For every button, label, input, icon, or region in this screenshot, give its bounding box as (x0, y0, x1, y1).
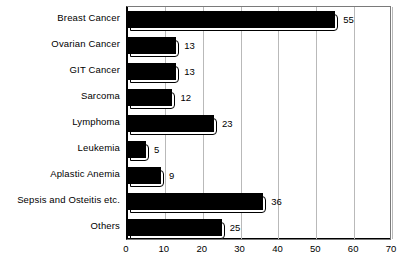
bar (127, 63, 176, 80)
bar-value-label: 36 (271, 197, 282, 207)
bar-fill (127, 89, 172, 106)
gridline-70 (392, 7, 393, 239)
bar-value-label: 55 (343, 15, 354, 25)
bar-value-label: 13 (184, 41, 195, 51)
bar-value-label: 25 (230, 223, 241, 233)
category-label: Sepsis and Osteitis etc. (0, 195, 120, 205)
bar-value-label: 5 (154, 145, 159, 155)
bar-value-label: 12 (180, 93, 191, 103)
bar-fill (127, 63, 176, 80)
x-tick-label: 50 (310, 243, 321, 254)
category-label: Sarcoma (0, 91, 120, 101)
gridline-50 (316, 7, 317, 239)
bar (127, 37, 176, 54)
x-tick-label: 20 (196, 243, 207, 254)
bar-chart: Breast CancerOvarian CancerGIT CancerSar… (0, 0, 405, 268)
bar-fill (127, 219, 222, 236)
category-label: Breast Cancer (0, 13, 120, 23)
gridline-60 (354, 7, 355, 239)
category-label: Others (0, 221, 120, 231)
x-tick-label: 10 (159, 243, 170, 254)
bar (127, 219, 222, 236)
category-label: Aplastic Anemia (0, 169, 120, 179)
bar (127, 141, 146, 158)
bar-fill (127, 141, 146, 158)
plot-area: 5513131223593625 (126, 6, 391, 240)
category-label: Ovarian Cancer (0, 39, 120, 49)
x-tick-label: 40 (272, 243, 283, 254)
bar-fill (127, 11, 335, 28)
bar-fill (127, 115, 214, 132)
bar (127, 115, 214, 132)
bar-value-label: 9 (169, 171, 174, 181)
bar-fill (127, 167, 161, 184)
category-label: Lymphoma (0, 117, 120, 127)
category-axis: Breast CancerOvarian CancerGIT CancerSar… (0, 6, 120, 240)
bar-value-label: 13 (184, 67, 195, 77)
bar (127, 89, 172, 106)
category-label: Leukemia (0, 143, 120, 153)
x-tick-label: 60 (348, 243, 359, 254)
bar-value-label: 23 (222, 119, 233, 129)
bar (127, 11, 335, 28)
bar (127, 193, 263, 210)
x-tick-label: 0 (123, 243, 128, 254)
category-label: GIT Cancer (0, 65, 120, 75)
x-axis-tick-labels: 010203040506070 (126, 243, 391, 259)
bar-fill (127, 193, 263, 210)
x-tick-label: 30 (234, 243, 245, 254)
bar-fill (127, 37, 176, 54)
bar (127, 167, 161, 184)
x-tick-label: 70 (386, 243, 397, 254)
